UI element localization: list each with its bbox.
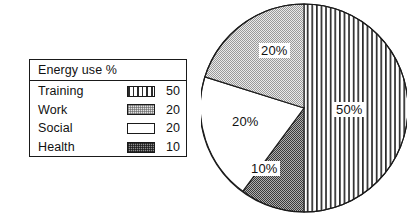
- pie-label-social: 20%: [230, 114, 261, 129]
- chart-figure: Energy use % Training 50 Work 20 Social …: [0, 0, 418, 224]
- light-stipple-swatch-icon: [127, 104, 155, 115]
- legend-item-social: Social 20: [30, 119, 186, 138]
- legend-rows: Training 50 Work 20 Social 20 Health 10: [30, 81, 186, 156]
- legend-header-row: Energy use %: [30, 60, 186, 81]
- pie-label-work: 20%: [259, 43, 290, 58]
- legend-item-value: 20: [162, 103, 180, 117]
- legend-item-health: Health 10: [30, 138, 186, 157]
- dark-stipple-swatch-icon: [127, 142, 155, 153]
- legend-item-value: 50: [162, 84, 180, 98]
- pie-label-training: 50%: [334, 102, 365, 117]
- pie-chart: 50% 20% 20% 10%: [201, 1, 407, 217]
- legend-title: Energy use %: [38, 63, 117, 77]
- legend-box: Energy use % Training 50 Work 20 Social …: [29, 59, 187, 157]
- white-swatch-icon: [127, 123, 155, 134]
- legend-item-training: Training 50: [30, 82, 186, 101]
- legend-item-work: Work 20: [30, 101, 186, 120]
- legend-item-label: Work: [38, 103, 127, 117]
- pie-label-health: 10%: [249, 161, 280, 176]
- legend-item-label: Social: [38, 121, 127, 135]
- pie-chart-svg: [201, 1, 407, 217]
- legend-item-label: Health: [38, 140, 127, 154]
- legend-item-label: Training: [38, 84, 127, 98]
- legend-item-value: 20: [162, 121, 180, 135]
- vertical-stripe-swatch-icon: [127, 86, 155, 97]
- legend-item-value: 10: [162, 140, 180, 154]
